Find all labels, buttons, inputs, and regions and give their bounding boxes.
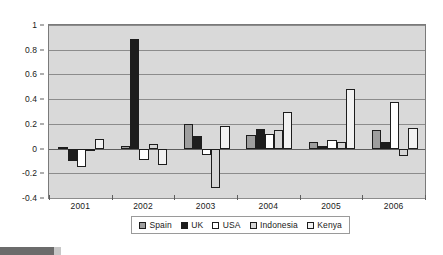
legend-item-spain[interactable]: Spain xyxy=(139,220,172,230)
y-tick-mark xyxy=(40,49,44,50)
x-tick-mark xyxy=(49,195,50,200)
bar-indonesia-2001 xyxy=(86,149,95,151)
bar-indonesia-2002 xyxy=(149,144,158,149)
x-tick-mark xyxy=(174,195,175,200)
bar-spain-2005 xyxy=(309,142,318,148)
legend-item-label: USA xyxy=(223,220,241,230)
x-tick-mark xyxy=(237,195,238,200)
x-tick-mark xyxy=(362,195,363,200)
legend-item-label: Indonesia xyxy=(260,220,298,230)
y-tick-mark xyxy=(40,173,44,174)
x-tick-mark xyxy=(425,195,426,200)
bar-indonesia-2004 xyxy=(274,130,283,149)
legend-item-kenya[interactable]: Kenya xyxy=(307,220,342,230)
legend-item-uk[interactable]: UK xyxy=(181,220,204,230)
bar-kenya-2003 xyxy=(220,126,229,148)
bar-kenya-2001 xyxy=(95,139,104,149)
bar-chart-figure: 10.80.60.40.20-0.2-0.4 20012002200320042… xyxy=(0,0,443,255)
y-tick-label: 0.8 xyxy=(25,45,37,55)
legend-item-label: Kenya xyxy=(317,220,342,230)
bar-indonesia-2005 xyxy=(337,142,346,148)
legend-item-label: Spain xyxy=(150,220,172,230)
y-axis: 10.80.60.40.20-0.2-0.4 xyxy=(0,24,44,199)
x-tick-label-2005: 2005 xyxy=(321,201,341,211)
legend-swatch-icon xyxy=(307,222,314,229)
legend-swatch-icon xyxy=(250,222,257,229)
y-tick-label: -0.2 xyxy=(22,168,37,178)
bars-layer xyxy=(49,25,425,198)
bottom-strip-artifact xyxy=(0,247,54,255)
bar-spain-2002 xyxy=(121,146,130,148)
x-tick-mark xyxy=(300,195,301,200)
x-tick-label-2004: 2004 xyxy=(258,201,278,211)
x-tick-label-2001: 2001 xyxy=(70,201,90,211)
y-tick-label: -0.4 xyxy=(22,193,37,203)
y-tick-label: 0.2 xyxy=(25,119,37,129)
bar-uk-2006 xyxy=(381,142,390,148)
bar-spain-2001 xyxy=(58,147,67,149)
bar-usa-2004 xyxy=(265,134,274,149)
bar-usa-2003 xyxy=(202,149,211,155)
bar-usa-2005 xyxy=(327,140,336,149)
y-tick-label: 0.4 xyxy=(25,94,37,104)
x-tick-mark xyxy=(112,195,113,200)
x-tick-label-2002: 2002 xyxy=(133,201,153,211)
y-tick-label: 1 xyxy=(32,20,37,30)
bar-uk-2002 xyxy=(130,39,139,149)
bar-indonesia-2003 xyxy=(211,149,220,189)
x-axis: 200120022003200420052006 xyxy=(48,201,426,215)
bar-kenya-2004 xyxy=(283,112,292,149)
y-tick-mark xyxy=(40,74,44,75)
legend-item-usa[interactable]: USA xyxy=(212,220,240,230)
x-tick-label-2003: 2003 xyxy=(196,201,216,211)
y-tick-mark xyxy=(40,99,44,100)
bar-kenya-2005 xyxy=(346,89,355,148)
chart-legend: SpainUKUSAIndonesiaKenya xyxy=(131,216,350,234)
legend-item-indonesia[interactable]: Indonesia xyxy=(250,220,298,230)
y-tick-mark xyxy=(40,123,44,124)
bar-usa-2006 xyxy=(390,102,399,149)
bar-uk-2004 xyxy=(256,129,265,149)
legend-item-label: UK xyxy=(191,220,203,230)
bar-uk-2003 xyxy=(193,136,202,148)
legend-swatch-icon xyxy=(212,222,219,229)
bar-kenya-2002 xyxy=(158,149,167,165)
bar-uk-2001 xyxy=(68,149,77,161)
y-tick-label: 0 xyxy=(32,144,37,154)
bottom-strip-artifact-tail xyxy=(54,247,61,255)
bar-uk-2005 xyxy=(318,146,327,148)
bar-spain-2003 xyxy=(184,124,193,149)
y-tick-mark xyxy=(40,198,44,199)
x-tick-label-2006: 2006 xyxy=(384,201,404,211)
bar-spain-2004 xyxy=(246,135,255,149)
bar-usa-2002 xyxy=(139,149,148,160)
bar-spain-2006 xyxy=(372,130,381,149)
bar-kenya-2006 xyxy=(408,128,417,149)
legend-swatch-icon xyxy=(181,222,188,229)
y-tick-label: 0.6 xyxy=(25,69,37,79)
y-tick-mark xyxy=(40,148,44,149)
plot-area xyxy=(48,24,426,199)
y-tick-mark xyxy=(40,25,44,26)
bar-usa-2001 xyxy=(77,149,86,168)
legend-swatch-icon xyxy=(139,222,146,229)
bar-indonesia-2006 xyxy=(399,149,408,156)
